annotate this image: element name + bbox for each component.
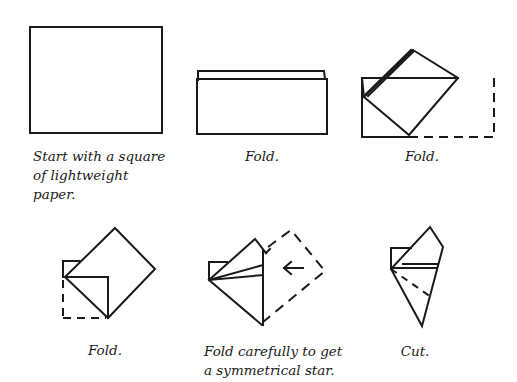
step5-caption: Fold carefully to get a symmetrical star…	[204, 342, 374, 380]
step1-caption: Start with a square of lightweight paper…	[33, 147, 183, 204]
step3-caption: Fold.	[382, 147, 462, 166]
step2-caption: Fold.	[222, 147, 302, 166]
step4-caption: Fold.	[65, 341, 145, 360]
step6-caption: Cut.	[385, 342, 445, 361]
left-arrow-icon	[284, 262, 303, 274]
step1-square-paper	[30, 27, 162, 133]
step5-symmetrical-fold	[209, 230, 325, 325]
step4-diamond-fold	[63, 228, 155, 318]
step6-cut-shape	[391, 227, 443, 326]
step2-folded-rectangle	[197, 71, 327, 134]
step3-diagonal-fold	[362, 50, 494, 137]
